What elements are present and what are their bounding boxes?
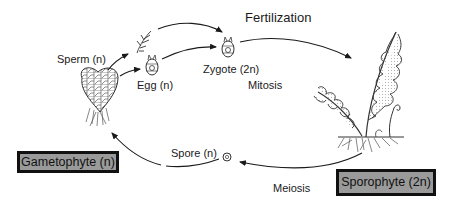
gametophyte-box: Gametophyte (n) xyxy=(17,151,119,173)
arrow-sporophyte-to-spore xyxy=(240,153,362,168)
sporophyte-fern-icon xyxy=(314,32,404,152)
arrow-egg-to-zygote xyxy=(162,47,216,59)
egg-icon xyxy=(146,55,158,75)
spore-icon xyxy=(223,153,231,161)
arrow-zygote-to-sporophyte xyxy=(240,39,351,58)
egg-label: Egg (n) xyxy=(137,79,173,91)
zygote-label: Zygote (2n) xyxy=(203,63,259,75)
sperm-label: Sperm (n) xyxy=(57,53,106,65)
spore-label: Spore (n) xyxy=(171,147,217,159)
gametophyte-prothallus-icon xyxy=(81,68,118,126)
life-cycle-diagram: Fertilization Sperm (n) Egg (n) Zygote (… xyxy=(0,0,449,210)
sporophyte-box: Sporophyte (2n) xyxy=(336,169,436,196)
arrow-gametophyte-to-egg xyxy=(120,69,140,76)
fertilization-label: Fertilization xyxy=(245,11,311,25)
sperm-icon xyxy=(137,31,151,53)
mitosis-label: Mitosis xyxy=(248,79,282,91)
zygote-icon xyxy=(222,37,234,57)
meiosis-label: Meiosis xyxy=(273,182,310,194)
arrow-gametophyte-to-sperm xyxy=(108,54,128,70)
arrow-sperm-to-zygote xyxy=(158,23,222,32)
